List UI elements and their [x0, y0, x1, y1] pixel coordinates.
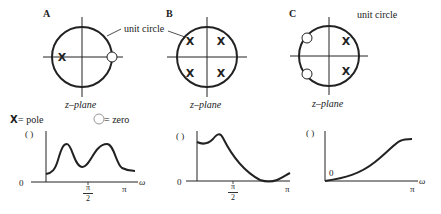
z-plane-b [167, 17, 247, 97]
plot-c-y-label: ( ) [306, 128, 314, 138]
plot-c-tick-pi: π [410, 184, 415, 194]
zero-icon [302, 33, 312, 43]
pole-icon: X [342, 65, 351, 78]
plot-a-y-label: ( ) [25, 129, 33, 139]
legend-pole-icon: X [10, 115, 18, 125]
plot-b-y-label: ( ) [176, 131, 184, 141]
z-plane-label-a: z–plane [65, 100, 96, 110]
plot-c-origin: 0 [329, 168, 334, 178]
plot-a-origin: 0 [19, 178, 24, 188]
plot-b-tick-half-pi: π2 [228, 183, 238, 202]
plot-a-x-label: ω [139, 177, 145, 187]
plot-b-origin: 0 [177, 177, 182, 187]
z-plane-label-c: z–plane [312, 99, 343, 109]
z-plane-c [290, 17, 368, 95]
panel-label-b: B [166, 9, 173, 19]
panel-label-c: C [289, 9, 296, 19]
plot-b-tick-pi: π [285, 184, 290, 194]
zero-icon [107, 52, 117, 62]
zero-icon [302, 69, 312, 79]
plot-a-tick-pi: π [122, 184, 127, 194]
pole-icon: X [217, 67, 226, 80]
legend-zero-label: = zero [104, 115, 129, 125]
panel-label-a: A [43, 9, 50, 19]
pole-icon: X [342, 35, 351, 48]
plot-c-x-label: ω [419, 176, 425, 186]
pole-icon: X [186, 35, 195, 48]
unit-circle-label-c: unit circle [357, 10, 397, 20]
z-plane-label-b: z–plane [190, 100, 221, 110]
plot-a [31, 131, 138, 185]
legend-pole-label: = pole [18, 115, 43, 125]
unit-circle-label-a: unit circle [124, 24, 164, 34]
pole-icon: X [217, 35, 226, 48]
plot-b [186, 131, 290, 184]
plot-a-tick-half-pi: π2 [83, 184, 93, 203]
z-plane-a [43, 17, 123, 97]
pole-icon: X [186, 67, 195, 80]
pole-icon: X [58, 51, 67, 64]
plot-c [325, 131, 418, 181]
legend-zero-icon [94, 114, 104, 124]
